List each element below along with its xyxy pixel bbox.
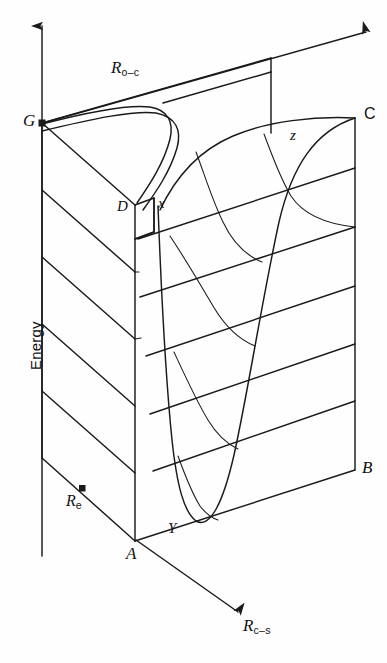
block-outline: [42, 118, 355, 541]
vertex-label-g: G: [23, 112, 35, 129]
valley-edge-stubs: [135, 272, 141, 339]
surface-point-label-z: z: [290, 128, 296, 143]
diagram-canvas: [0, 0, 387, 663]
d-notch-prism: [135, 198, 154, 239]
r-o-c-base: R: [111, 58, 121, 77]
potential-energy-surface-figure: Energy Ro–c Rc–s Re G D C B A x Y z: [0, 0, 387, 663]
r-o-c-subscript: o–c: [121, 66, 139, 78]
vertex-label-c: C: [364, 106, 376, 122]
surface-mesh-lines: [170, 134, 355, 520]
r-c-s-axis-label: Rc–s: [243, 616, 271, 636]
vertex-label-a: A: [126, 545, 136, 562]
vertex-label-b: B: [362, 459, 372, 476]
r-c-s-subscript: c–s: [253, 624, 271, 636]
re-subscript: e: [76, 499, 82, 511]
top-slab: [42, 58, 271, 133]
r-c-s-base: R: [243, 616, 253, 635]
r-o-c-axis-label: Ro–c: [111, 58, 140, 78]
left-face-contours: [42, 190, 135, 473]
surface-point-label-x: x: [158, 196, 165, 211]
energy-axis-label: Energy: [27, 321, 44, 370]
surface-point-label-y: Y: [168, 521, 176, 536]
r-c-s-axis-line: [136, 540, 238, 612]
re-label: Re: [66, 492, 82, 511]
point-markers: [39, 120, 86, 492]
vertex-label-d: D: [117, 199, 128, 214]
g-point-marker: [39, 120, 46, 127]
re-point-marker: [79, 485, 86, 492]
re-base: R: [66, 492, 76, 509]
